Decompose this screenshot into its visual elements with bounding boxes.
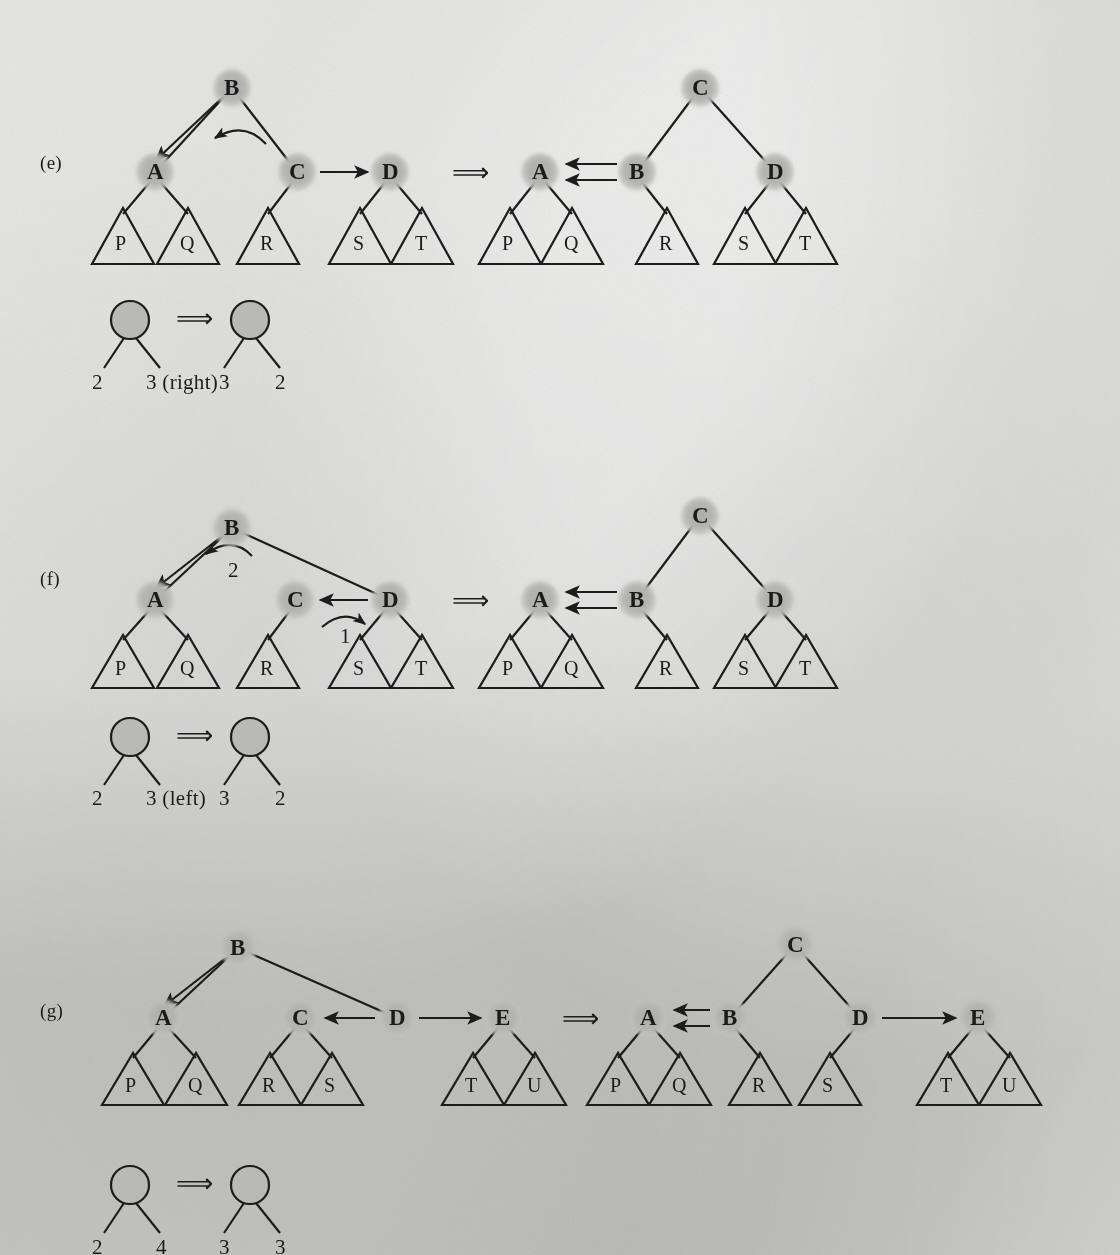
arrow-b-to-a [156, 537, 221, 588]
legend-value-before-left: 2 [92, 786, 103, 811]
node-label-d: D [382, 587, 399, 613]
legend-node-after [231, 718, 269, 756]
node-label-a: A [155, 1005, 172, 1031]
legend-stem-after-left [224, 1203, 244, 1233]
subtree-label-q: Q [672, 1074, 687, 1097]
legend-value-after-right: 3 [275, 1235, 286, 1255]
edge-b-d [238, 948, 397, 1018]
subtree-label-s: S [353, 232, 364, 255]
legend-node-after [231, 301, 269, 339]
panel-g [102, 926, 1041, 1233]
subtree-label-r: R [260, 232, 274, 255]
implies-symbol-g: ⟹ [562, 1003, 599, 1034]
node-label-c: C [692, 503, 709, 529]
node-label-b: B [629, 159, 645, 185]
node-label-b: B [224, 515, 240, 541]
node-label-b: B [230, 935, 246, 961]
implies-symbol-legend-f: ⟹ [176, 720, 213, 751]
subtree-label-p: P [125, 1074, 136, 1097]
subtree-label-t: T [940, 1074, 953, 1097]
arrow-b-to-a [164, 957, 227, 1006]
node-label-a: A [147, 159, 164, 185]
legend-stem-after-left [224, 755, 244, 785]
subtree-label-p: P [502, 657, 513, 680]
subtree-label-p: P [115, 232, 126, 255]
node-label-c: C [787, 932, 804, 958]
arrow-b-to-a [156, 98, 222, 160]
subtree-label-s: S [738, 657, 749, 680]
legend-value-before-left: 2 [92, 370, 103, 395]
legend-stem-before-left [104, 1203, 124, 1233]
implies-symbol-e: ⟹ [452, 157, 489, 188]
subtree-label-r: R [260, 657, 274, 680]
legend-stem-before-left [104, 338, 124, 368]
legend-stem-after-right [256, 755, 280, 785]
legend-value-before-right: 4 [156, 1235, 167, 1255]
node-label-e: E [970, 1005, 986, 1031]
implies-symbol-legend-e: ⟹ [176, 303, 213, 334]
subtree-label-t: T [465, 1074, 478, 1097]
subtree-label-s: S [738, 232, 749, 255]
legend-stem-after-right [256, 338, 280, 368]
subtree-label-r: R [262, 1074, 276, 1097]
legend-node-before [111, 301, 149, 339]
subtree-label-p: P [502, 232, 513, 255]
subtree-label-t: T [799, 657, 812, 680]
legend-value-before-right: 3 (left) [146, 786, 206, 811]
node-label-c: C [692, 75, 709, 101]
legend-stem-after-right [256, 1203, 280, 1233]
node-label-c: C [292, 1005, 309, 1031]
node-label-a: A [532, 159, 549, 185]
legend-stem-before-right [136, 338, 160, 368]
node-label-b: B [629, 587, 645, 613]
legend-value-after-right: 2 [275, 786, 286, 811]
legend-stem-before-left [104, 755, 124, 785]
subtree-label-u: U [527, 1074, 542, 1097]
legend-value-after-left: 3 [219, 1235, 230, 1255]
subtree-label-q: Q [188, 1074, 203, 1097]
subtree-label-s: S [822, 1074, 833, 1097]
edge-b-d [232, 528, 390, 600]
legend-stem-after-left [224, 338, 244, 368]
subtree-label-p: P [115, 657, 126, 680]
subtree-label-r: R [752, 1074, 766, 1097]
subtree-label-t: T [799, 232, 812, 255]
legend-node-after [231, 1166, 269, 1204]
panel-label-f: (f) [40, 568, 60, 590]
subtree-label-p: P [610, 1074, 621, 1097]
subtree-label-u: U [1002, 1074, 1017, 1097]
node-label-d: D [382, 159, 399, 185]
node-label-d: D [389, 1005, 406, 1031]
node-label-d: D [767, 587, 784, 613]
subtree-label-s: S [324, 1074, 335, 1097]
implies-symbol-f: ⟹ [452, 585, 489, 616]
legend-stem-before-right [136, 755, 160, 785]
curve-arrow-label-1: 1 [340, 624, 351, 649]
implies-symbol-legend-g: ⟹ [176, 1168, 213, 1199]
node-label-b: B [722, 1005, 738, 1031]
legend-node-before [111, 1166, 149, 1204]
node-label-a: A [640, 1005, 657, 1031]
node-label-b: B [224, 75, 240, 101]
subtree-label-q: Q [564, 232, 579, 255]
legend-value-after-right: 2 [275, 370, 286, 395]
arrow-b-self-curve [215, 130, 266, 144]
legend-value-before-right: 3 (right) [146, 370, 218, 395]
subtree-label-q: Q [180, 657, 195, 680]
legend-value-after-left: 3 [219, 370, 230, 395]
curve-arrow-label-2: 2 [228, 558, 239, 583]
subtree-label-t: T [415, 232, 428, 255]
legend-node-before [111, 718, 149, 756]
subtree-label-t: T [415, 657, 428, 680]
panel-label-g: (g) [40, 1000, 63, 1022]
node-label-e: E [495, 1005, 511, 1031]
node-label-a: A [147, 587, 164, 613]
legend-stem-before-right [136, 1203, 160, 1233]
node-label-d: D [767, 159, 784, 185]
legend-value-after-left: 3 [219, 786, 230, 811]
legend-value-before-left: 2 [92, 1235, 103, 1255]
node-label-c: C [287, 587, 304, 613]
subtree-label-q: Q [180, 232, 195, 255]
subtree-label-r: R [659, 657, 673, 680]
panel-label-e: (e) [40, 152, 62, 174]
